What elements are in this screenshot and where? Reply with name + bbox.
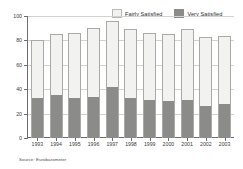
bar-series-group [28, 16, 234, 138]
stacked-bar[interactable] [106, 21, 119, 138]
source-note: Source: Eurobarometer [19, 157, 66, 162]
bar-segment-very-satisfied[interactable] [200, 106, 211, 138]
stacked-bar[interactable] [68, 33, 81, 138]
stacked-bar[interactable] [218, 36, 231, 138]
stacked-bar[interactable] [181, 29, 194, 138]
plot-area: 020406080100 [27, 16, 234, 138]
y-axis-tick-label: 0 [19, 135, 22, 141]
stacked-bar[interactable] [124, 29, 137, 138]
bar-segment-very-satisfied[interactable] [69, 98, 80, 138]
x-axis-label: 2003 [218, 141, 231, 147]
x-axis-label: 1996 [87, 141, 100, 147]
bar-segment-very-satisfied[interactable] [219, 104, 230, 138]
bar-segment-very-satisfied[interactable] [32, 98, 43, 138]
y-axis-tick-label: 20 [16, 111, 22, 117]
x-axis-label: 2000 [162, 141, 175, 147]
bar-group[interactable] [31, 16, 44, 138]
x-axis-label: 1998 [124, 141, 137, 147]
x-axis-labels: 1993199419951996199719981999200020012002… [28, 141, 234, 147]
stacked-bar[interactable] [31, 40, 44, 138]
bar-segment-very-satisfied[interactable] [88, 97, 99, 138]
y-axis-tick-label: 80 [16, 37, 22, 43]
bar-segment-very-satisfied[interactable] [182, 100, 193, 138]
x-axis-label: 1995 [68, 141, 81, 147]
bar-group[interactable] [162, 16, 175, 138]
x-axis-label: 2001 [181, 141, 194, 147]
bar-segment-very-satisfied[interactable] [125, 98, 136, 138]
stacked-bar[interactable] [162, 34, 175, 138]
stacked-bar[interactable] [50, 34, 63, 138]
bar-group[interactable] [106, 16, 119, 138]
x-axis-label: 1997 [106, 141, 119, 147]
x-axis-label: 1999 [143, 141, 156, 147]
bar-group[interactable] [87, 16, 100, 138]
bar-group[interactable] [124, 16, 137, 138]
bar-group[interactable] [199, 16, 212, 138]
bar-group[interactable] [68, 16, 81, 138]
x-axis-label: 1993 [31, 141, 44, 147]
bar-group[interactable] [181, 16, 194, 138]
chart-container: Fairly Satisfied Very Satisfied 02040608… [0, 0, 243, 169]
y-axis-tick-label: 100 [13, 13, 22, 19]
bar-segment-very-satisfied[interactable] [51, 95, 62, 138]
y-axis-tick-label: 60 [16, 62, 22, 68]
stacked-bar[interactable] [143, 33, 156, 138]
stacked-bar[interactable] [87, 28, 100, 138]
bar-group[interactable] [218, 16, 231, 138]
y-axis-tick-label: 40 [16, 86, 22, 92]
bar-segment-very-satisfied[interactable] [144, 100, 155, 138]
bar-group[interactable] [143, 16, 156, 138]
bar-segment-very-satisfied[interactable] [163, 101, 174, 138]
y-axis-tick: 0 [24, 138, 28, 139]
stacked-bar[interactable] [199, 37, 212, 138]
bar-group[interactable] [50, 16, 63, 138]
x-axis-label: 2002 [199, 141, 212, 147]
bar-segment-very-satisfied[interactable] [107, 87, 118, 138]
x-axis-label: 1994 [50, 141, 63, 147]
